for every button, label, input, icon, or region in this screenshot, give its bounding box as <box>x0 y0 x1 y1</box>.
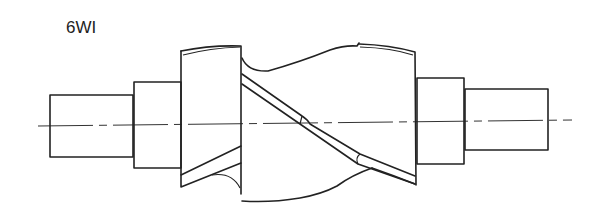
shaft-drawing <box>0 0 605 224</box>
right-shaft-end <box>465 89 548 150</box>
centerline <box>38 120 572 126</box>
left-cutter-segment <box>181 46 241 194</box>
